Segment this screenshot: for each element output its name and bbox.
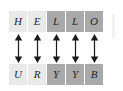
mapping-arrow-slot-3 — [66, 33, 84, 63]
cipher-mapping-diagram: H E L L O — [0, 0, 123, 91]
double-headed-vertical-arrow-icon — [90, 34, 99, 63]
ciphertext-letter-1: R — [34, 69, 41, 80]
plaintext-letter-3: L — [72, 16, 78, 27]
mapping-arrow-slot-2 — [47, 33, 65, 63]
ciphertext-letter-2: Y — [53, 69, 59, 80]
ciphertext-letter-4: B — [91, 69, 98, 80]
ciphertext-cell-0: U — [9, 64, 27, 85]
plaintext-cell-3: L — [66, 11, 84, 32]
plaintext-letter-0: H — [14, 16, 22, 27]
ciphertext-cell-2: Y — [47, 64, 65, 85]
mapping-arrow-slot-1 — [28, 33, 46, 63]
double-headed-vertical-arrow-icon — [52, 34, 61, 63]
plaintext-letter-2: L — [53, 16, 59, 27]
ciphertext-row: U R Y Y B — [9, 64, 103, 85]
ciphertext-cell-4: B — [85, 64, 103, 85]
plaintext-cell-0: H — [9, 11, 27, 32]
plaintext-letter-1: E — [34, 16, 41, 27]
plaintext-cell-1: E — [28, 11, 46, 32]
plaintext-cell-4: O — [85, 11, 103, 32]
ciphertext-cell-1: R — [28, 64, 46, 85]
double-headed-vertical-arrow-icon — [14, 34, 23, 63]
ciphertext-letter-3: Y — [72, 69, 78, 80]
mapping-arrow-row — [9, 33, 103, 63]
double-headed-vertical-arrow-icon — [71, 34, 80, 63]
mapping-arrow-slot-0 — [9, 33, 27, 63]
right-edge-artifact — [112, 14, 115, 38]
ciphertext-cell-3: Y — [66, 64, 84, 85]
ciphertext-letter-0: U — [14, 69, 22, 80]
plaintext-letter-4: O — [90, 16, 98, 27]
double-headed-vertical-arrow-icon — [33, 34, 42, 63]
plaintext-cell-2: L — [47, 11, 65, 32]
plaintext-row: H E L L O — [9, 11, 103, 32]
mapping-arrow-slot-4 — [85, 33, 103, 63]
